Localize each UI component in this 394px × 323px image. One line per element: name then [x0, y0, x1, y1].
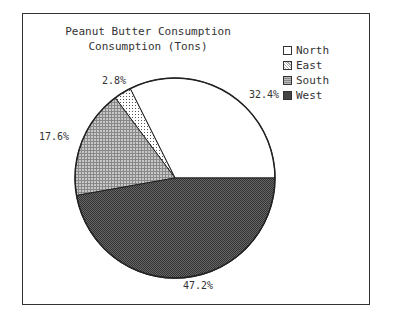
- legend-item-south: South: [283, 73, 329, 88]
- label-north: 32.4%: [249, 89, 279, 100]
- legend-item-west: West: [283, 88, 329, 103]
- swatch-east-icon: [283, 61, 292, 70]
- slice-west: [77, 178, 276, 278]
- label-south: 17.6%: [39, 131, 69, 142]
- pie-chart: [0, 0, 394, 323]
- swatch-north-icon: [283, 46, 292, 55]
- legend-label: South: [296, 74, 329, 87]
- legend-label: East: [296, 59, 323, 72]
- swatch-west-icon: [283, 91, 292, 100]
- legend-label: West: [296, 89, 323, 102]
- legend-item-east: East: [283, 58, 329, 73]
- legend-item-north: North: [283, 43, 329, 58]
- legend: North East South West: [283, 43, 329, 103]
- swatch-south-icon: [283, 76, 292, 85]
- label-west: 47.2%: [183, 280, 213, 291]
- label-east: 2.8%: [102, 75, 126, 86]
- legend-label: North: [296, 44, 329, 57]
